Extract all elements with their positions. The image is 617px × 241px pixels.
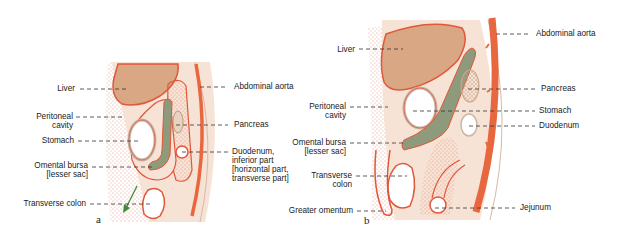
label-peritoneal-cavity-b-1: Peritoneal: [290, 102, 346, 111]
label-duodenum-a-3: [horizontal part,: [232, 165, 288, 174]
label-abdominal-aorta-a: Abdominal aorta: [234, 82, 294, 91]
panel-letter-b: b: [364, 214, 370, 226]
label-stomach-b: Stomach: [539, 106, 571, 115]
label-jejunum-b: Jejunum: [520, 203, 551, 212]
label-transverse-colon-b-1: Transverse: [290, 171, 352, 180]
label-peritoneal-cavity-a-2: cavity: [20, 121, 73, 130]
label-duodenum-a-4: transverse part]: [232, 174, 289, 183]
label-greater-omentum-b: Greater omentum: [270, 206, 353, 215]
label-pancreas-b: Pancreas: [541, 84, 576, 93]
panel-b: [350, 18, 537, 220]
panel-a: [76, 62, 228, 222]
label-omental-bursa-b-2: [lesser sac]: [270, 147, 346, 156]
label-transverse-colon-b-2: colon: [290, 180, 352, 189]
label-omental-bursa-a-2: [lesser sac]: [10, 170, 88, 179]
label-omental-bursa-b-1: Omental bursa: [270, 138, 346, 147]
label-transverse-colon-a: Transverse colon: [10, 199, 86, 208]
label-duodenum-a-1: Duodenum,: [232, 147, 274, 156]
label-stomach-a: Stomach: [20, 136, 74, 145]
label-duodenum-a-2: inferior part: [232, 156, 273, 165]
panel-letter-a: a: [96, 213, 101, 225]
label-abdominal-aorta-b: Abdominal aorta: [536, 29, 596, 38]
label-liver-b: Liver: [300, 45, 355, 54]
label-peritoneal-cavity-a-1: Peritoneal: [20, 112, 73, 121]
label-peritoneal-cavity-b-2: cavity: [290, 111, 346, 120]
label-liver-a: Liver: [30, 84, 75, 93]
label-duodenum-b: Duodenum: [539, 121, 579, 130]
label-omental-bursa-a-1: Omental bursa: [10, 161, 88, 170]
label-pancreas-a: Pancreas: [234, 120, 269, 129]
